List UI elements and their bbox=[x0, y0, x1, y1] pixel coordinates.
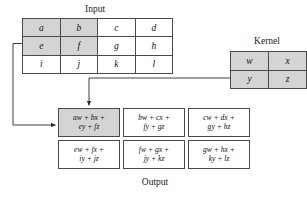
input-cell-0-2: c bbox=[98, 19, 136, 37]
output-matrix-row: ew + fx + iy + jz fw + gx + jy + kz gw +… bbox=[58, 140, 250, 169]
kernel-matrix: w x y z bbox=[230, 51, 307, 89]
kernel-cell-1-0: y bbox=[231, 70, 269, 89]
input-caption: Input bbox=[22, 4, 168, 14]
output-cell-0-2: cw + dx + gy + hz bbox=[188, 108, 250, 137]
kernel-matrix-row: w x bbox=[231, 52, 307, 71]
input-matrix-row: a b c d bbox=[23, 19, 173, 37]
input-cell-2-2: k bbox=[98, 55, 136, 73]
input-matrix: a b c d e f g h i j k l bbox=[22, 18, 173, 74]
input-cell-1-1: f bbox=[60, 37, 98, 55]
kernel-cell-0-1: x bbox=[269, 52, 307, 71]
input-cell-0-0: a bbox=[23, 19, 61, 37]
input-cell-1-2: g bbox=[98, 37, 136, 55]
output-cell-1-2: gw + hx + ky + lz bbox=[188, 140, 250, 169]
output-cell-0-0: aw + bx + ey + fz bbox=[58, 108, 120, 137]
output-matrix-row: aw + bx + ey + fz bw + cx + fy + gz cw +… bbox=[58, 108, 250, 137]
input-cell-0-1: b bbox=[60, 19, 98, 37]
input-cell-2-1: j bbox=[60, 55, 98, 73]
output-cell-0-1: bw + cx + fy + gz bbox=[123, 108, 185, 137]
kernel-cell-0-0: w bbox=[231, 52, 269, 71]
input-cell-1-3: h bbox=[135, 37, 173, 55]
kernel-to-output-arrow bbox=[89, 78, 230, 106]
output-cell-1-0: ew + fx + iy + jz bbox=[58, 140, 120, 169]
input-matrix-row: i j k l bbox=[23, 55, 173, 73]
kernel-caption: Kernel bbox=[230, 36, 304, 46]
output-cell-0-1-line2: fy + gz bbox=[143, 123, 164, 132]
output-cell-1-1-line2: jy + kz bbox=[144, 155, 165, 164]
output-caption: Output bbox=[100, 177, 210, 187]
output-cell-1-0-line2: iy + jz bbox=[79, 155, 98, 164]
convolution-figure: Input a b c d e f g h i j k l Kernel bbox=[0, 0, 307, 203]
kernel-cell-1-1: z bbox=[269, 70, 307, 89]
input-matrix-row: e f g h bbox=[23, 37, 173, 55]
input-cell-2-3: l bbox=[135, 55, 173, 73]
input-cell-1-0: e bbox=[23, 37, 61, 55]
kernel-matrix-row: y z bbox=[231, 70, 307, 89]
output-cell-1-2-line2: ky + lz bbox=[209, 155, 230, 164]
output-cell-0-0-line2: ey + fz bbox=[79, 123, 100, 132]
output-cell-1-1: fw + gx + jy + kz bbox=[123, 140, 185, 169]
output-cell-0-2-line2: gy + hz bbox=[208, 123, 231, 132]
output-matrix: aw + bx + ey + fz bw + cx + fy + gz cw +… bbox=[58, 108, 250, 172]
input-cell-0-3: d bbox=[135, 19, 173, 37]
input-cell-2-0: i bbox=[23, 55, 61, 73]
